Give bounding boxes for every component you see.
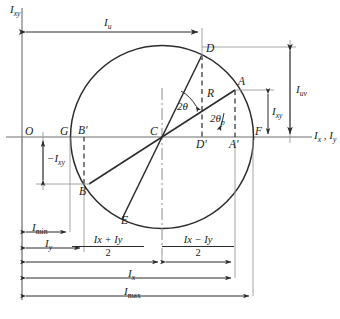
dimension-label-sum-over-two: Ix + Iy 2 bbox=[72, 234, 144, 258]
axis-label-horizontal: Ix , Iy bbox=[314, 130, 336, 144]
point-label-A-prime: A' bbox=[229, 139, 238, 151]
dimension-label-Iu: Iu bbox=[104, 17, 111, 31]
point-label-G: G bbox=[60, 126, 68, 138]
angle-label-two-theta-p: 2θp bbox=[210, 113, 225, 127]
angle-label-two-theta: 2θ bbox=[177, 101, 188, 112]
point-label-F: F bbox=[255, 126, 262, 138]
radius-label: R bbox=[207, 88, 214, 100]
dimension-label-negative-Ixy: −Ixy bbox=[47, 153, 65, 167]
dimension-label-Imin: Imin bbox=[32, 222, 48, 236]
point-label-D-prime: D' bbox=[196, 139, 207, 151]
mohr-circle-figure: Ixy Ix , Iy O G B' C D' A' F D A B E R 2… bbox=[0, 0, 340, 319]
point-label-D: D bbox=[206, 43, 214, 55]
point-label-B: B bbox=[79, 186, 86, 198]
point-label-E: E bbox=[121, 215, 128, 227]
point-label-O: O bbox=[25, 126, 33, 138]
dimension-arrows bbox=[26, 32, 290, 296]
dimension-label-diff-over-two: Ix − Iy 2 bbox=[162, 234, 234, 258]
dimension-label-Iy: Iy bbox=[45, 238, 52, 252]
point-label-B-prime: B' bbox=[78, 125, 87, 137]
point-label-A: A bbox=[238, 76, 245, 88]
dimension-label-Imax: Imax bbox=[124, 286, 141, 300]
dimension-label-Ixy: Ixy bbox=[272, 106, 282, 120]
point-label-C: C bbox=[150, 126, 158, 138]
axis-label-vertical: Ixy bbox=[10, 4, 20, 18]
dimension-label-Ix: Ix bbox=[128, 268, 135, 282]
dimension-label-Iuv: Iuv bbox=[296, 84, 307, 98]
